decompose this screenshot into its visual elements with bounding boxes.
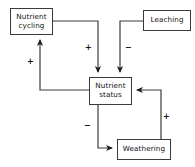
edge-sign-status-to-cycling: + [27, 58, 34, 66]
edge-sign-weathering-to-status: + [163, 113, 170, 121]
edge-status-to-weathering [98, 105, 112, 148]
diagram-canvas: Nutrient cycling Leaching Nutrient statu… [0, 0, 195, 167]
node-nutrient-cycling-line2: cycling [19, 22, 45, 31]
node-leaching-line1: Leaching [150, 16, 183, 25]
node-nutrient-cycling[interactable]: Nutrient cycling [10, 8, 53, 35]
node-leaching[interactable]: Leaching [143, 10, 191, 31]
node-weathering[interactable]: Weathering [117, 139, 171, 160]
edge-status-to-cycling [40, 40, 89, 90]
edge-sign-cycling-to-status: + [85, 44, 92, 52]
node-nutrient-status[interactable]: Nutrient status [89, 77, 132, 105]
edge-weathering-to-status [137, 90, 161, 139]
node-weathering-line1: Weathering [123, 145, 165, 154]
edge-sign-leaching-to-status: − [125, 44, 132, 52]
node-nutrient-status-line2: status [99, 91, 122, 100]
edge-sign-status-to-weathering: − [84, 122, 91, 130]
